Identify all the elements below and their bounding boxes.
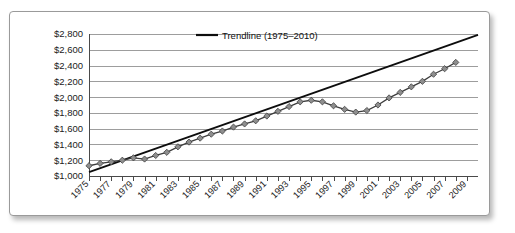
data-point-marker <box>319 99 325 105</box>
data-point-marker <box>219 128 225 134</box>
y-tick-label: $1,000 <box>54 170 83 181</box>
x-tick-label: 1999 <box>336 179 358 201</box>
data-point-marker <box>164 149 170 155</box>
data-point-marker <box>397 89 403 95</box>
y-tick-label: $2,200 <box>54 76 83 87</box>
data-point-marker <box>364 107 370 113</box>
data-point-marker <box>408 84 414 90</box>
data-series-line <box>89 62 456 165</box>
x-tick-label: 2001 <box>358 179 380 201</box>
line-chart: $1,000$1,200$1,400$1,600$1,800$2,000$2,2… <box>10 12 491 217</box>
data-point-marker <box>253 118 259 124</box>
x-tick-label: 1985 <box>180 179 202 201</box>
data-point-marker <box>97 160 103 166</box>
y-tick-label: $2,800 <box>54 28 83 39</box>
x-tick-label: 1979 <box>113 179 135 201</box>
data-point-marker <box>430 71 436 77</box>
chart-figure: $1,000$1,200$1,400$1,600$1,800$2,000$2,2… <box>0 0 515 233</box>
y-axis-tick-labels: $1,000$1,200$1,400$1,600$1,800$2,000$2,2… <box>54 28 83 181</box>
y-tick-label: $1,800 <box>54 107 83 118</box>
x-axis-tick-labels: 1975197719791981198319851987198919911993… <box>69 179 468 201</box>
data-point-marker <box>208 131 214 137</box>
trendline-path <box>89 35 478 172</box>
x-tick-label: 2003 <box>380 179 402 201</box>
data-point-marker <box>153 152 159 158</box>
x-tick-label: 1993 <box>269 179 291 201</box>
x-axis-ticks <box>90 177 468 181</box>
data-point-marker <box>308 97 314 103</box>
x-tick-label: 2009 <box>447 179 469 201</box>
chart-plot-container: $1,000$1,200$1,400$1,600$1,800$2,000$2,2… <box>10 12 491 217</box>
data-point-marker <box>386 95 392 101</box>
data-point-marker <box>353 109 359 115</box>
chart-legend: Trendline (1975–2010) <box>196 30 318 41</box>
y-tick-label: $1,200 <box>54 155 83 166</box>
y-tick-label: $2,400 <box>54 60 83 71</box>
y-tick-label: $2,600 <box>54 44 83 55</box>
x-tick-label: 1977 <box>91 179 113 201</box>
data-point-marker <box>119 157 125 163</box>
trendline-series <box>89 35 478 172</box>
y-tick-label: $1,600 <box>54 123 83 134</box>
x-tick-label: 1975 <box>69 179 91 201</box>
y-tick-label: $1,400 <box>54 139 83 150</box>
data-point-marker <box>375 102 381 108</box>
legend-item-label: Trendline (1975–2010) <box>222 30 318 41</box>
x-tick-label: 1987 <box>202 179 224 201</box>
data-point-marker <box>453 59 459 65</box>
y-tick-label: $2,000 <box>54 92 83 103</box>
x-tick-label: 1995 <box>291 179 313 201</box>
data-point-marker <box>242 121 248 127</box>
data-point-marker <box>330 103 336 109</box>
x-tick-label: 2005 <box>402 179 424 201</box>
data-series-path <box>89 62 456 165</box>
data-point-marker <box>419 78 425 84</box>
x-tick-label: 1991 <box>247 179 269 201</box>
gridlines <box>89 35 478 161</box>
data-point-marker <box>297 99 303 105</box>
data-point-marker <box>286 103 292 109</box>
x-tick-label: 1981 <box>136 179 158 201</box>
data-point-marker <box>141 156 147 162</box>
x-tick-label: 1997 <box>313 179 335 201</box>
x-tick-label: 1989 <box>224 179 246 201</box>
x-tick-label: 2007 <box>425 179 447 201</box>
data-point-marker <box>86 163 92 169</box>
data-point-marker <box>342 106 348 112</box>
data-point-marker <box>197 135 203 141</box>
chart-frame: $1,000$1,200$1,400$1,600$1,800$2,000$2,2… <box>9 11 490 216</box>
x-tick-label: 1983 <box>158 179 180 201</box>
